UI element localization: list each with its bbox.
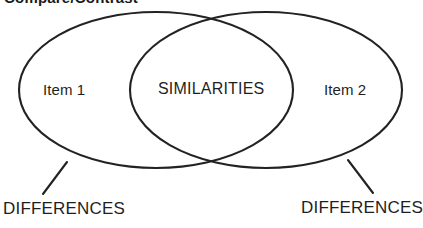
left-circle-label: Item 1 (43, 82, 85, 97)
right-differences-label: DIFFERENCES (301, 199, 423, 216)
right-callout-leader-line (348, 160, 373, 193)
overlap-label-similarities: SIMILARITIES (158, 81, 264, 97)
cropped-title-strip: Compare/Contrast (0, 0, 420, 7)
left-callout-leader-line (43, 162, 67, 194)
right-circle-label: Item 2 (324, 82, 366, 97)
cropped-title-text: Compare/Contrast (4, 0, 138, 6)
left-differences-label: DIFFERENCES (3, 200, 125, 217)
